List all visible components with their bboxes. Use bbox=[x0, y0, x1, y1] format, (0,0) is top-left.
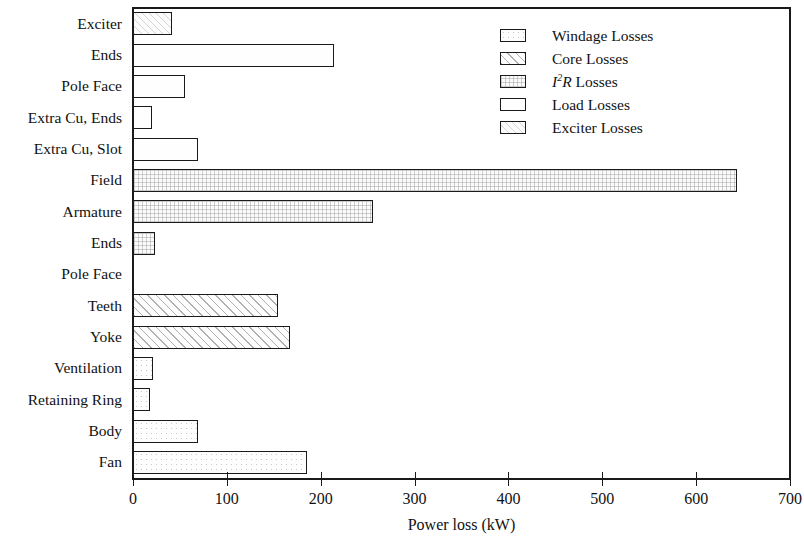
y-axis-tick-label: Teeth bbox=[0, 298, 122, 314]
x-axis-tick-inner bbox=[602, 472, 603, 479]
bar bbox=[133, 420, 198, 443]
bar bbox=[133, 232, 155, 255]
bar bbox=[133, 357, 153, 380]
y-axis-tick-label: Ends bbox=[0, 235, 122, 251]
power-loss-bar-chart: ExciterEndsPole FaceExtra Cu, EndsExtra … bbox=[0, 0, 804, 549]
bar bbox=[133, 263, 135, 286]
y-axis-tick-label: Ventilation bbox=[0, 360, 122, 376]
legend-label: Core Losses bbox=[552, 50, 628, 68]
x-axis-tick-label: 400 bbox=[496, 490, 520, 508]
x-axis-tick bbox=[696, 479, 697, 486]
legend-swatch bbox=[500, 121, 526, 134]
bar bbox=[133, 106, 152, 129]
x-axis-tick-label: 200 bbox=[309, 490, 333, 508]
bar bbox=[133, 388, 150, 411]
x-axis-tick bbox=[790, 479, 791, 486]
y-axis-tick-label: Field bbox=[0, 172, 122, 188]
legend-label: Windage Losses bbox=[552, 27, 653, 45]
plot-right-border bbox=[789, 8, 791, 478]
legend-label: I2R Losses bbox=[552, 72, 618, 91]
y-axis-tick-label: Retaining Ring bbox=[0, 392, 122, 408]
legend-swatch bbox=[500, 98, 526, 111]
x-axis-tick-inner bbox=[321, 472, 322, 479]
y-axis-tick-label: Extra Cu, Slot bbox=[0, 141, 122, 157]
legend-swatch bbox=[500, 75, 526, 88]
y-axis-category-labels: ExciterEndsPole FaceExtra Cu, EndsExtra … bbox=[0, 8, 128, 478]
y-axis-tick-label: Pole Face bbox=[0, 78, 122, 94]
legend-item: Exciter Losses bbox=[500, 116, 770, 139]
x-axis-tick-label: 700 bbox=[778, 490, 802, 508]
x-axis-tick bbox=[227, 479, 228, 486]
y-axis-tick-label: Pole Face bbox=[0, 266, 122, 282]
bar bbox=[133, 12, 172, 35]
x-axis-tick bbox=[133, 479, 134, 486]
y-axis-tick-label: Yoke bbox=[0, 329, 122, 345]
x-axis-tick-inner bbox=[696, 472, 697, 479]
x-axis-tick-label: 100 bbox=[215, 490, 239, 508]
y-axis-tick-label: Extra Cu, Ends bbox=[0, 110, 122, 126]
legend-item: I2R Losses bbox=[500, 70, 770, 93]
bar bbox=[133, 200, 373, 223]
x-axis-tick-label: 600 bbox=[684, 490, 708, 508]
y-axis-tick-label: Exciter bbox=[0, 16, 122, 32]
x-axis-title: Power loss (kW) bbox=[133, 516, 790, 534]
legend-swatch bbox=[500, 52, 526, 65]
legend-label: Load Losses bbox=[552, 96, 630, 114]
bar bbox=[133, 44, 334, 67]
x-axis-tick-inner bbox=[227, 472, 228, 479]
bar bbox=[133, 451, 307, 474]
bar bbox=[133, 294, 278, 317]
legend-swatch bbox=[500, 29, 526, 42]
bar bbox=[133, 169, 737, 192]
x-axis-tick-label: 500 bbox=[590, 490, 614, 508]
x-axis-tick-label: 0 bbox=[129, 490, 137, 508]
x-axis-tick bbox=[321, 479, 322, 486]
plot-top-border bbox=[132, 7, 791, 9]
x-axis-tick bbox=[415, 479, 416, 486]
legend-item: Windage Losses bbox=[500, 24, 770, 47]
legend-item: Core Losses bbox=[500, 47, 770, 70]
legend-label: Exciter Losses bbox=[552, 119, 643, 137]
legend-item: Load Losses bbox=[500, 93, 770, 116]
x-axis-tick bbox=[508, 479, 509, 486]
x-axis-tick-label: 300 bbox=[403, 490, 427, 508]
y-axis-tick-label: Fan bbox=[0, 454, 122, 470]
bar bbox=[133, 326, 290, 349]
bar bbox=[133, 75, 185, 98]
x-axis-tick-inner bbox=[415, 472, 416, 479]
x-axis-tick-inner bbox=[508, 472, 509, 479]
y-axis-tick-label: Body bbox=[0, 423, 122, 439]
x-axis-tick bbox=[602, 479, 603, 486]
y-axis-tick-label: Armature bbox=[0, 204, 122, 220]
legend: Windage LossesCore LossesI2R LossesLoad … bbox=[500, 24, 770, 139]
y-axis-tick-label: Ends bbox=[0, 47, 122, 63]
bar bbox=[133, 138, 198, 161]
x-axis-line bbox=[132, 478, 791, 480]
